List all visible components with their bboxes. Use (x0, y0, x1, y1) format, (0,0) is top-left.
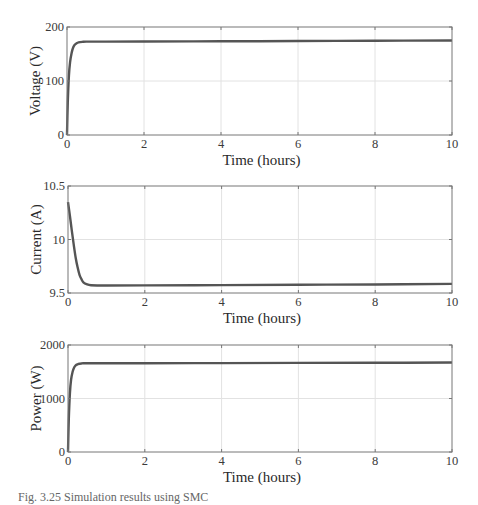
x-axis-label: Time (hours) (222, 152, 300, 169)
figure-caption: Fig. 3.25 Simulation results using SMC (18, 490, 208, 505)
power-chart: 0246810010002000Time (hours)Power (W) (28, 338, 458, 486)
y-axis-label: Voltage (V) (27, 46, 44, 116)
x-tick-label: 4 (218, 295, 225, 309)
x-tick-label: 10 (446, 295, 459, 309)
x-tick-label: 8 (372, 454, 378, 468)
x-tick-label: 4 (218, 137, 225, 151)
y-tick-label: 100 (45, 74, 64, 88)
x-tick-label: 2 (142, 454, 148, 468)
voltage-chart: 02468100100200Time (hours)Voltage (V) (27, 20, 458, 169)
y-axis-label: Current (A) (28, 204, 45, 274)
y-tick-label: 10 (53, 233, 66, 247)
x-axis-label: Time (hours) (223, 310, 301, 327)
y-tick-label: 200 (45, 20, 64, 34)
x-axis-label: Time (hours) (223, 469, 301, 486)
x-tick-label: 0 (65, 295, 71, 309)
current-chart: 02468109.51010.5Time (hours)Current (A) (28, 179, 458, 327)
x-tick-label: 0 (65, 454, 71, 468)
x-tick-label: 0 (64, 137, 70, 151)
x-tick-label: 6 (295, 137, 301, 151)
x-tick-label: 6 (295, 295, 301, 309)
x-tick-label: 6 (295, 454, 301, 468)
x-tick-label: 10 (446, 454, 459, 468)
x-tick-label: 2 (141, 137, 147, 151)
y-tick-label: 0 (59, 445, 65, 459)
y-tick-label: 10.5 (43, 179, 65, 193)
x-tick-label: 4 (218, 454, 225, 468)
x-tick-label: 2 (142, 295, 148, 309)
y-tick-label: 9.5 (49, 286, 65, 300)
x-tick-label: 8 (372, 137, 378, 151)
y-tick-label: 2000 (40, 338, 65, 352)
x-tick-label: 10 (446, 137, 459, 151)
y-axis-label: Power (W) (28, 365, 45, 431)
x-tick-label: 8 (372, 295, 378, 309)
y-tick-label: 0 (58, 128, 64, 142)
